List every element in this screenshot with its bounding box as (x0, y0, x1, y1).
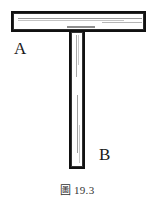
vertical-hatch-line-2 (78, 35, 79, 65)
horizontal-bar-a-interior (13, 13, 144, 30)
vertical-bar-b-interior (71, 32, 83, 167)
horizontal-hatch-line-1 (18, 18, 142, 19)
vertical-hatch-line-3 (77, 95, 78, 153)
figure-caption-label: 圖 (60, 184, 71, 197)
figure-diagram: A B 圖 19.3 (0, 0, 154, 201)
horizontal-bar-a (11, 11, 146, 32)
vertical-hatch-line-4 (79, 125, 80, 163)
part-label-b: B (99, 146, 111, 163)
horizontal-hatch-segment-junction (67, 26, 95, 28)
horizontal-hatch-line-2 (18, 20, 124, 21)
vertical-hatch-line-1 (76, 35, 77, 77)
part-label-a: A (14, 40, 26, 57)
figure-caption-number: 19.3 (74, 184, 94, 196)
vertical-bar-b (69, 30, 85, 169)
horizontal-hatch-line-3 (102, 22, 142, 23)
figure-caption: 圖 19.3 (0, 181, 154, 197)
